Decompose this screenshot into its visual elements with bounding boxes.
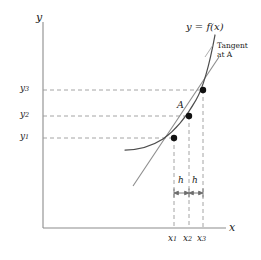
h-arrow-left-head-start: [174, 191, 178, 195]
y-tick-label-y2: y2: [20, 110, 29, 119]
y-axis-label: y: [36, 12, 42, 23]
data-points-group: [171, 87, 206, 141]
y-tick-label-y3: y3: [20, 84, 29, 93]
tangent-annotation-line1: Tangent: [217, 41, 248, 50]
vertical-guides-group: [174, 90, 203, 228]
diagram-canvas: [0, 0, 261, 260]
curve-equation-label: y = f(x): [186, 22, 224, 32]
point-x3-y3: [200, 87, 206, 93]
y-tick-label-y1: y1: [20, 132, 29, 141]
x-tick-sub-x3: 3: [202, 235, 206, 243]
figure-container: y x y3 y2 y1 x1 x2 x3 y = f(x) Tangent a…: [0, 0, 261, 260]
y-tick-sub-y3: 3: [25, 85, 29, 93]
point-x1-y1: [171, 135, 177, 141]
x-tick-label-x1: x1: [168, 234, 177, 243]
horizontal-guides-group: [43, 90, 203, 138]
axes-group: [43, 22, 226, 228]
x-tick-sub-x2: 2: [188, 235, 192, 243]
tangent-annotation-line2: at A: [217, 50, 248, 59]
y-tick-sub-y1: 1: [25, 133, 29, 141]
x-tick-sub-x1: 1: [173, 235, 177, 243]
h-arrow-right-head-start: [189, 191, 193, 195]
x-tick-label-x2: x2: [183, 234, 192, 243]
point-A-label: A: [177, 100, 184, 110]
x-tick-label-x3: x3: [197, 234, 206, 243]
y-tick-sub-y2: 2: [25, 111, 29, 119]
point-A: [186, 113, 192, 119]
x-axis-label: x: [229, 222, 235, 233]
h-arrows-group: [174, 189, 203, 198]
h-label-right: h: [192, 176, 198, 185]
h-arrow-right-head-end: [199, 191, 203, 195]
tangent-annotation: Tangent at A: [217, 41, 248, 60]
h-label-left: h: [178, 176, 184, 185]
